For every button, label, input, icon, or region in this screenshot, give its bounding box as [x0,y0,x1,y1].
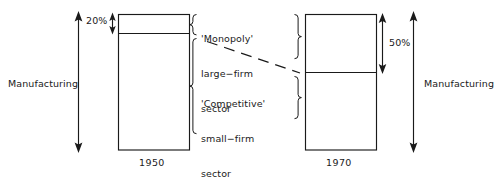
brace-1970-competitive [295,77,302,119]
brace-1950-competitive [190,39,197,134]
right-percent-arrow [379,13,387,74]
competitive-sector-label-line1: 'Competitive' [201,98,265,110]
bar-1970 [306,15,377,151]
brace-1970-monopoly [295,15,302,59]
left-percent-arrow [109,13,115,35]
left-axis-label: Manufacturing [8,78,78,90]
right-percent-label: 50% [389,37,410,49]
competitive-sector-label: 'Competitive' small−firm sector [201,74,265,182]
stacked-bar-comparison-figure: Manufacturing 20% 'Monopoly' large−firm … [0,0,501,182]
year-label-1950: 1950 [139,157,165,169]
brace-1950-monopoly [190,15,197,35]
right-manufacturing-arrow [410,11,418,153]
competitive-sector-label-line3: sector [201,168,265,180]
right-axis-label: Manufacturing [424,78,494,90]
competitive-sector-label-line2: small−firm [201,133,265,145]
left-percent-label: 20% [86,15,107,27]
bar-1950 [119,15,190,151]
year-label-1970: 1970 [326,157,352,169]
monopoly-sector-label-line1: 'Monopoly' [201,33,253,45]
